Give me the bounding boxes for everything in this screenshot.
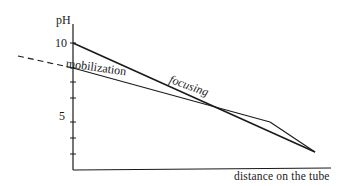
x-axis-label: distance on the tube [234, 171, 330, 183]
focusing-line [73, 43, 315, 152]
diagram-canvas: pH 10 5 mobilization focusing distance o… [0, 0, 349, 186]
y-tick-label-5: 5 [59, 110, 65, 122]
ph-gradient-plot [0, 0, 349, 186]
y-tick-label-10: 10 [55, 37, 67, 49]
mobilization-line-tail [270, 122, 315, 152]
y-axis-label: pH [56, 14, 71, 26]
